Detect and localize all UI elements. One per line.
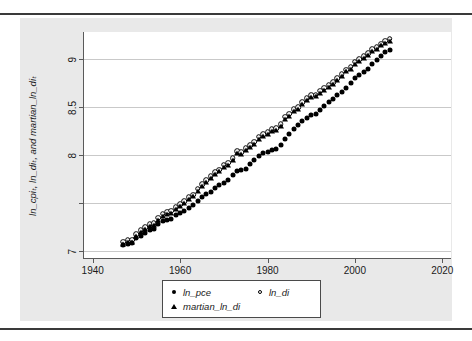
data-point-ln_pce <box>387 48 392 53</box>
gridline-y <box>84 107 451 108</box>
y-axis-tick-label: 8 <box>68 155 78 156</box>
legend-label: martian_ln_di <box>183 301 240 312</box>
data-point-martian_ln_di <box>339 74 345 79</box>
y-axis-tick <box>79 59 84 60</box>
filled-triangle-icon <box>168 304 180 309</box>
x-axis-tick-label: 2000 <box>344 265 366 276</box>
data-point-martian_ln_di <box>286 113 292 118</box>
y-axis-tick-label: 8.5 <box>68 107 78 108</box>
y-axis-tick <box>79 155 84 156</box>
gridline-y <box>84 251 451 252</box>
gridline-y <box>84 155 451 156</box>
legend-row-2: martian_ln_di <box>168 299 315 313</box>
data-point-ln_pce <box>274 147 279 152</box>
legend-label: ln_pce <box>183 287 211 298</box>
y-axis-tick <box>79 107 84 108</box>
legend-item-ln_pce[interactable]: ln_pce <box>168 287 254 298</box>
filled-circle-icon <box>168 290 180 295</box>
data-point-martian_ln_di <box>278 124 284 129</box>
data-point-martian_ln_di <box>387 38 393 43</box>
data-point-martian_ln_di <box>251 141 257 146</box>
data-point-ln_pce <box>151 227 156 232</box>
data-point-ln_pce <box>344 85 349 90</box>
x-axis-tick-label: 1980 <box>256 265 278 276</box>
data-point-martian_ln_di <box>295 106 301 111</box>
gridline-y <box>84 59 451 60</box>
data-point-ln_pce <box>287 131 292 136</box>
x-axis-tick <box>355 258 356 263</box>
open-circle-icon <box>254 290 266 295</box>
data-point-martian_ln_di <box>230 157 236 162</box>
data-point-ln_pce <box>348 80 353 85</box>
y-axis-title: ln_cpiₜ, ln_diₜ, and martian_ln_diₜ <box>26 32 40 259</box>
plot-canvas <box>84 32 451 258</box>
data-point-martian_ln_di <box>216 169 222 174</box>
x-axis-tick-label: 1960 <box>169 265 191 276</box>
x-axis-tick <box>180 258 181 263</box>
page-rule-bottom <box>0 328 472 330</box>
y-axis-tick <box>79 203 84 204</box>
data-point-ln_pce <box>365 66 370 71</box>
x-axis-tick <box>93 258 94 263</box>
data-point-ln_pce <box>243 166 248 171</box>
data-point-martian_ln_di <box>195 188 201 193</box>
chart-legend: ln_pce ln_di martian_ln_di <box>162 280 321 318</box>
legend-row-1: ln_pce ln_di <box>168 285 315 299</box>
gridline-y <box>84 203 451 204</box>
legend-label: ln_di <box>269 287 289 298</box>
y-axis-title-text: ln_cpiₜ, ln_diₜ, and martian_ln_diₜ <box>28 76 38 216</box>
x-axis-tick-label: 1940 <box>82 265 104 276</box>
data-point-ln_pce <box>278 142 283 147</box>
plot-area: 788.5919401960198020002020 <box>83 32 451 259</box>
y-axis-tick-label: 9 <box>68 59 78 60</box>
page-rule-top <box>0 13 472 15</box>
data-point-ln_pce <box>130 240 135 245</box>
y-axis-tick <box>79 251 84 252</box>
data-point-ln_pce <box>226 178 231 183</box>
y-axis-tick-label: 7 <box>68 251 78 252</box>
stata-graph-panel: ln_cpiₜ, ln_diₜ, and martian_ln_diₜ 788.… <box>20 18 452 321</box>
x-axis-tick <box>268 258 269 263</box>
data-point-martian_ln_di <box>348 66 354 71</box>
data-point-ln_pce <box>282 136 287 141</box>
x-axis-tick <box>442 258 443 263</box>
legend-item-ln_di[interactable]: ln_di <box>254 287 314 298</box>
legend-item-martian_ln_di[interactable]: martian_ln_di <box>168 301 308 312</box>
data-point-martian_ln_di <box>225 162 231 167</box>
x-axis-tick-label: 2020 <box>431 265 453 276</box>
